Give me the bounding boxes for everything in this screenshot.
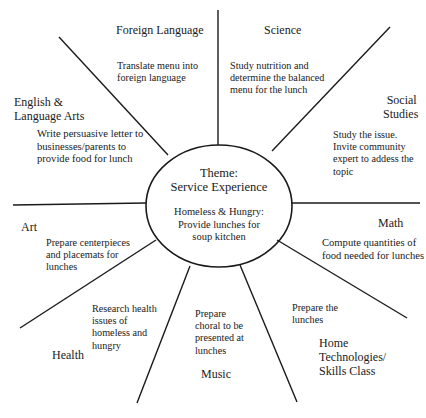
activity-line: Study the issue. [333, 129, 414, 141]
subject-line: Home [319, 337, 386, 351]
activity-english-language-arts: Write persuasive letter to businesses/pa… [37, 128, 143, 166]
subject-line: Studies [383, 108, 418, 122]
theme-label: Theme: [146, 166, 292, 180]
activity-health: Research health issues of homeless and h… [92, 303, 157, 352]
activity-foreign-language: Translate menu into foreign language [117, 60, 198, 84]
activity-line: Research health [92, 303, 157, 315]
activity-science: Study nutrition and determine the balanc… [230, 60, 324, 97]
activity-line: Prepare the [292, 302, 338, 314]
activity-line: Prepare centerpieces [46, 237, 130, 249]
center-theme: Theme: Service Experience [146, 166, 292, 195]
activity-line: foreign language [117, 72, 198, 84]
activity-line: hungry [92, 340, 157, 352]
center-sub-line: Homeless & Hungry: [146, 206, 292, 219]
theme-title: Service Experience [146, 180, 292, 194]
activity-line: and placemats for [46, 249, 130, 261]
subject-english-language-arts: English & Language Arts [14, 96, 84, 124]
activity-line: menu for the lunch [230, 84, 324, 96]
subject-social-studies: Social Studies [385, 94, 418, 122]
activity-line: Write persuasive letter to [37, 128, 143, 141]
subject-line: English & [14, 96, 84, 110]
activity-line: topic [333, 166, 414, 178]
divider-home-music [240, 265, 297, 402]
activity-line: choral to be [195, 320, 244, 332]
subject-music: Music [201, 368, 231, 382]
activity-line: Invite community [333, 141, 414, 153]
activity-line: Prepare [195, 308, 244, 320]
divider-art-ela [13, 203, 146, 205]
activity-line: issues of [92, 315, 157, 327]
subject-line: Technologies/ [319, 351, 386, 365]
activity-line: presented at [195, 332, 244, 344]
center-subtitle: Homeless & Hungry: Provide lunches for s… [146, 206, 292, 244]
subject-science: Science [264, 24, 301, 38]
activity-line: expert to addess the [333, 153, 414, 165]
center-sub-line: soup kitchen [146, 231, 292, 244]
activity-math: Compute quantities of food needed for lu… [322, 237, 424, 262]
activity-line: homeless and [92, 327, 157, 339]
activity-home-technologies: Prepare the lunches [292, 302, 338, 326]
activity-line: food needed for lunches [322, 250, 424, 263]
subject-home-technologies: Home Technologies/ Skills Class [319, 337, 386, 378]
activity-line: businesses/parents to [37, 141, 143, 154]
subject-art: Art [21, 221, 37, 235]
center-sub-line: Provide lunches for [146, 219, 292, 232]
activity-line: determine the balanced [230, 72, 324, 84]
subject-line: Social [385, 94, 418, 108]
activity-line: lunches [292, 314, 338, 326]
subject-foreign-language: Foreign Language [116, 24, 204, 38]
subject-line: Language Arts [14, 110, 84, 124]
activity-art: Prepare centerpieces and placemats for l… [46, 237, 130, 274]
activity-line: Translate menu into [117, 60, 198, 72]
activity-line: lunches [46, 261, 130, 273]
activity-social-studies: Study the issue. Invite community expert… [333, 129, 414, 178]
activity-line: Compute quantities of [322, 237, 424, 250]
activity-music: Prepare choral to be presented at lunche… [195, 308, 244, 357]
activity-line: provide food for lunch [37, 153, 143, 166]
activity-line: lunches [195, 345, 244, 357]
activity-line: Study nutrition and [230, 60, 324, 72]
subject-health: Health [52, 349, 84, 363]
subject-line: Skills Class [319, 365, 386, 379]
subject-math: Math [378, 217, 403, 231]
